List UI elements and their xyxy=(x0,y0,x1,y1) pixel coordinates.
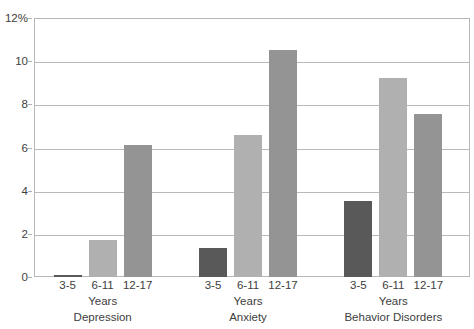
bars-layer xyxy=(34,18,470,277)
x-tick-label: 12-17 xyxy=(268,279,297,291)
x-axis-group-label: Behavior Disorders xyxy=(344,311,442,323)
y-tick-mark xyxy=(28,191,32,192)
x-axis-unit-label: Years xyxy=(234,295,263,307)
x-tick-label: 3-5 xyxy=(205,279,222,291)
y-tick-label: 12% xyxy=(5,12,28,24)
y-tick-mark xyxy=(28,277,32,278)
bar xyxy=(234,135,262,277)
y-axis: 12%1086420 xyxy=(0,0,32,329)
x-tick-label: 6-11 xyxy=(382,279,404,291)
y-tick-mark xyxy=(28,18,32,19)
x-axis-unit-label: Years xyxy=(88,295,117,307)
bar xyxy=(124,145,152,277)
x-axis: 3-56-1112-17YearsDepression3-56-1112-17Y… xyxy=(34,277,470,329)
y-tick-mark xyxy=(28,234,32,235)
y-tick-mark xyxy=(28,104,32,105)
x-tick-label: 6-11 xyxy=(92,279,114,291)
x-axis-group-label: Anxiety xyxy=(229,311,267,323)
x-tick-label: 12-17 xyxy=(414,279,443,291)
bar-chart: 12%1086420 3-56-1112-17YearsDepression3-… xyxy=(0,0,474,329)
x-tick-label: 12-17 xyxy=(123,279,152,291)
bar xyxy=(414,114,442,277)
x-tick-label: 3-5 xyxy=(59,279,76,291)
bar xyxy=(89,240,117,277)
y-tick-mark xyxy=(28,148,32,149)
x-tick-label: 6-11 xyxy=(237,279,259,291)
y-tick-label: 10 xyxy=(15,55,28,67)
bar xyxy=(379,78,407,277)
x-tick-label: 3-5 xyxy=(350,279,367,291)
y-tick-mark xyxy=(28,61,32,62)
bar xyxy=(344,201,372,277)
bar xyxy=(269,50,297,277)
chart-title xyxy=(0,0,474,6)
x-axis-group-label: Depression xyxy=(74,311,132,323)
bar xyxy=(199,248,227,277)
x-axis-unit-label: Years xyxy=(379,295,408,307)
